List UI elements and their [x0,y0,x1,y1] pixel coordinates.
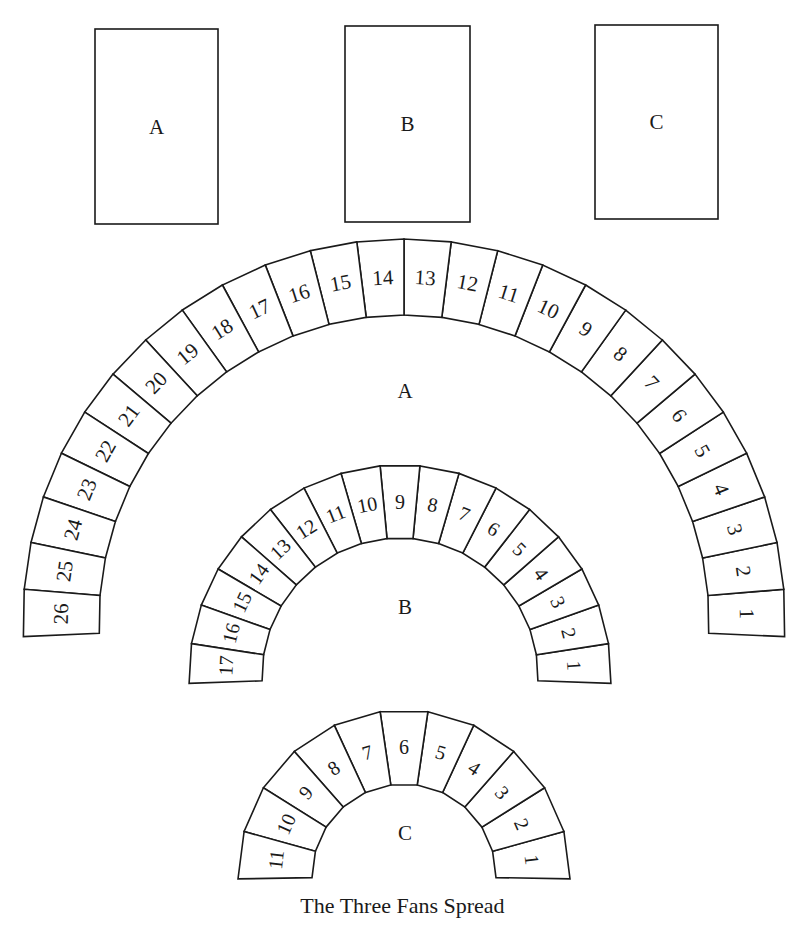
fan-position-number: 1 [563,660,586,671]
fan-position-number: 25 [51,559,78,583]
fan-position-number: 11 [264,849,288,871]
three-fans-diagram: ABC 123456789101112131415161718192021222… [0,0,805,935]
fan-position-number: 15 [328,269,353,296]
fan-position-number: 14 [371,265,394,290]
fan-label: B [398,595,412,619]
fan-label: C [398,821,412,845]
card-c: C [595,25,718,219]
fan-position-number: 12 [455,269,480,296]
diagram-canvas: ABC 123456789101112131415161718192021222… [0,0,805,935]
figure-caption: The Three Fans Spread [0,893,805,919]
fan-position-number: 1 [735,608,759,619]
fan-c: 1234567891011C [238,712,570,879]
fan-position-number: 9 [395,491,405,513]
cards-layer: ABC [95,25,718,224]
card-a: A [95,29,218,224]
fan-position-number: 17 [214,655,237,676]
fan-position-number: 10 [355,492,379,517]
fan-position-number: 13 [414,265,436,290]
fans-layer: 1234567891011121314151617181920212223242… [23,239,784,879]
fan-label: A [397,379,413,403]
card-label: B [400,112,414,136]
fan-a: 1234567891011121314151617181920212223242… [23,239,784,637]
card-label: C [649,110,663,134]
fan-position-number: 26 [49,603,73,624]
fan-b: 1234567891011121314151617B [189,466,611,684]
card-b: B [345,26,470,222]
card-label: A [149,115,165,139]
fan-position-number: 6 [399,736,409,758]
